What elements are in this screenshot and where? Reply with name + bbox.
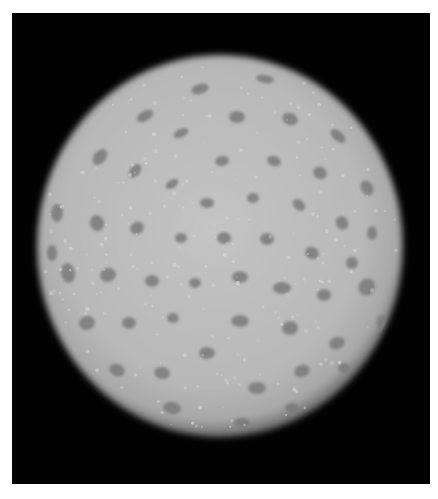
surface-speckle [239,86,243,90]
surface-speckle [205,265,207,267]
surface-speckle [73,293,76,296]
surface-speckle [152,132,156,136]
surface-speckle [214,236,216,238]
surface-speckle [302,82,306,86]
surface-speckle [269,235,273,239]
surface-speckle [238,383,241,386]
surface-speckle [306,138,308,140]
surface-speckle [49,229,53,233]
surface-speckle [100,291,102,293]
surface-speckle [289,102,292,105]
surface-speckle [236,277,238,279]
surface-speckle [48,193,51,196]
surface-speckle [69,246,73,250]
surface-speckle [303,407,306,410]
surface-speckle [106,262,108,264]
surface-speckle [163,204,167,208]
pollen-grain-body [37,55,403,437]
surface-speckle [327,279,331,283]
surface-speckle [86,253,88,255]
surface-speckle [174,154,178,158]
surface-speckle [81,170,85,174]
surface-speckle [128,173,132,177]
surface-speckle [49,291,53,295]
surface-speckle [187,295,191,299]
surface-speckle [367,327,369,329]
surface-speckle [156,333,158,335]
surface-speckle [153,101,157,105]
surface-speckle [277,383,279,385]
surface-speckle [68,309,71,312]
surface-speckle [330,361,334,365]
surface-speckle [321,146,323,148]
surface-speckle [134,172,136,174]
surface-speckle [130,254,133,257]
surface-speckle [285,414,287,416]
surface-speckle [366,168,370,172]
surface-speckle [297,314,299,316]
surface-speckle [104,237,108,241]
surface-speckle [255,176,258,179]
surface-speckle [202,308,204,310]
surface-speckle [166,275,169,278]
surface-speckle [144,302,147,305]
surface-speckle [105,313,107,315]
pore [122,317,136,329]
surface-speckle [373,209,377,213]
pore [273,282,291,294]
surface-speckle [366,195,368,197]
surface-speckle [322,252,326,256]
surface-speckle [161,411,164,414]
surface-speckle [134,373,137,376]
surface-speckle [296,156,299,159]
surface-speckle [131,164,134,167]
surface-speckle [343,245,346,248]
pore [282,321,298,335]
surface-speckle [58,292,61,295]
surface-speckle [311,212,315,216]
pore [248,382,266,394]
surface-speckle [211,284,215,288]
surface-speckle [394,218,396,220]
surface-speckle [291,316,294,319]
surface-speckle [332,148,335,151]
surface-speckle [181,206,184,209]
surface-speckle [226,242,228,244]
surface-speckle [232,260,236,264]
surface-speckle [233,376,237,380]
surface-speckle [314,320,318,324]
surface-speckle [118,182,120,184]
surface-speckle [145,162,147,164]
surface-speckle [193,235,196,238]
surface-speckle [112,104,114,106]
surface-speckle [181,76,184,79]
surface-speckle [203,141,205,143]
surface-speckle [274,311,277,314]
surface-speckle [130,98,132,100]
surface-speckle [154,179,157,182]
surface-speckle [61,298,64,301]
surface-speckle [307,253,309,255]
surface-speckle [105,224,107,226]
surface-speckle [236,281,240,285]
surface-speckle [202,354,204,356]
surface-speckle [297,140,301,144]
surface-speckle [151,305,153,307]
surface-speckle [256,132,258,134]
surface-speckle [96,293,98,295]
surface-speckle [140,367,142,369]
surface-speckle [262,306,264,308]
surface-speckle [341,174,345,178]
surface-speckle [49,213,51,215]
surface-speckle [325,159,327,161]
surface-speckle [295,283,297,285]
pore [175,233,187,243]
surface-speckle [201,426,203,428]
surface-speckle [286,119,288,121]
surface-speckle [99,242,103,246]
surface-speckle [308,113,311,116]
surface-speckle [259,373,261,375]
surface-speckle [248,218,251,221]
surface-speckle [185,179,188,182]
surface-speckle [143,157,147,161]
